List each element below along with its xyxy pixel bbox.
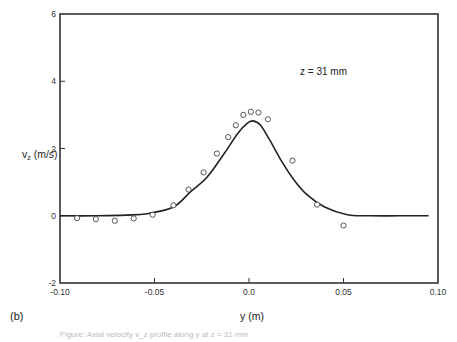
data-point bbox=[214, 151, 219, 156]
x-tick-label: -0.10 bbox=[50, 287, 70, 297]
x-axis-ticks: -0.10-0.050.00.050.10 bbox=[50, 278, 446, 297]
y-axis-label-units: (m/s) bbox=[31, 148, 58, 160]
y-tick-label: 6 bbox=[51, 9, 56, 19]
figure-caption: Figure: Axial velocity v_z profile along… bbox=[60, 330, 400, 342]
x-tick-label: 0.0 bbox=[243, 287, 255, 297]
y-tick-label: 4 bbox=[51, 76, 56, 86]
data-point bbox=[112, 218, 117, 223]
x-tick-label: 0.10 bbox=[430, 287, 447, 297]
x-tick-label: 0.05 bbox=[335, 287, 352, 297]
data-point bbox=[171, 203, 176, 208]
model-curve bbox=[60, 121, 429, 216]
data-point bbox=[233, 123, 238, 128]
measured-points bbox=[74, 109, 346, 228]
data-point bbox=[241, 112, 246, 117]
data-point bbox=[186, 187, 191, 192]
data-point bbox=[248, 109, 253, 114]
y-axis-label: vz (m/s) bbox=[22, 148, 58, 161]
data-point bbox=[131, 216, 136, 221]
data-point bbox=[256, 110, 261, 115]
data-point bbox=[226, 134, 231, 139]
x-axis-label: y (m) bbox=[240, 310, 264, 322]
y-tick-label: -2 bbox=[48, 278, 56, 288]
data-point bbox=[290, 158, 295, 163]
y-tick-label: 0 bbox=[51, 211, 56, 221]
chart: -0.10-0.050.00.050.10 -20246 z = 31 mm v… bbox=[0, 0, 457, 342]
annotation-z: z = 31 mm bbox=[300, 66, 347, 77]
plot-frame bbox=[60, 14, 438, 283]
data-point bbox=[341, 223, 346, 228]
x-tick-label: -0.05 bbox=[145, 287, 165, 297]
data-point bbox=[265, 117, 270, 122]
data-point bbox=[314, 202, 319, 207]
data-point bbox=[93, 217, 98, 222]
data-point bbox=[150, 212, 155, 217]
data-point bbox=[74, 216, 79, 221]
data-point bbox=[201, 170, 206, 175]
panel-label: (b) bbox=[10, 310, 23, 322]
